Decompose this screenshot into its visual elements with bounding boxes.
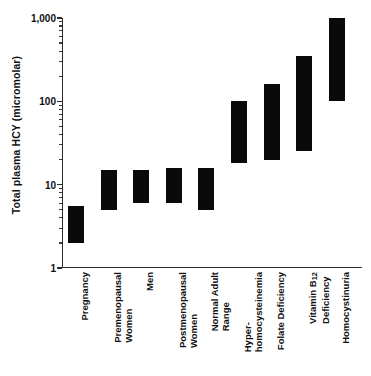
x-label-line1: Pregnancy xyxy=(79,272,90,321)
x-label-line1: Homocystinuria xyxy=(340,272,351,344)
bar-normal-adult-range xyxy=(198,168,214,210)
y-tick-label: 1 xyxy=(50,263,56,274)
x-axis-line xyxy=(62,267,362,268)
y-minor-tick-mark xyxy=(59,119,62,120)
y-minor-tick-mark xyxy=(59,217,62,218)
y-minor-tick-mark xyxy=(59,159,62,160)
x-axis-category-labels: PregnancyPremenopausalWomenMenPostmenopa… xyxy=(62,272,362,376)
y-minor-tick-mark xyxy=(59,36,62,37)
x-label-vitamin-b12-deficiency: Vitamin B12Deficiency xyxy=(308,272,331,324)
y-minor-tick-mark xyxy=(59,51,62,52)
x-label-premenopausal-women: PremenopausalWomen xyxy=(113,272,134,343)
y-minor-tick-mark xyxy=(59,76,62,77)
x-label-line1: Vitamin B12 xyxy=(307,272,318,324)
y-minor-tick-mark xyxy=(59,209,62,210)
plot-area: 1,000100101 xyxy=(62,18,362,268)
y-minor-tick-mark xyxy=(59,228,62,229)
y-axis-title-text: Total plasma HCY (micromolar) xyxy=(10,56,22,214)
bar-postmenopausal-women xyxy=(166,168,182,203)
y-minor-tick-mark xyxy=(59,188,62,189)
y-tick-label: 1,000 xyxy=(31,13,56,24)
bar-premenopausal-women xyxy=(101,170,117,210)
x-label-normal-adult-range: Normal AdultRange xyxy=(210,272,231,331)
x-label-pregnancy: Pregnancy xyxy=(80,272,91,321)
x-label-postmenopausal-women: PostmenopausalWomen xyxy=(178,272,199,348)
x-label-line2: Women xyxy=(188,272,199,348)
x-label-folate-deficiency: Folate Deficiency xyxy=(276,272,287,350)
bar-vitamin-b12-deficiency xyxy=(296,56,312,152)
y-minor-tick-mark xyxy=(59,203,62,204)
y-axis-title: Total plasma HCY (micromolar) xyxy=(2,0,30,270)
y-tick-mark xyxy=(57,184,62,185)
bar-folate-deficiency xyxy=(264,84,280,159)
x-label-homocystinuria: Homocystinuria xyxy=(341,272,352,344)
y-minor-tick-mark xyxy=(59,105,62,106)
y-minor-tick-mark xyxy=(59,30,62,31)
y-minor-tick-mark xyxy=(59,242,62,243)
y-tick-mark xyxy=(57,267,62,268)
y-tick-mark xyxy=(57,101,62,102)
bar-pregnancy xyxy=(68,206,84,243)
y-axis-line xyxy=(62,18,63,268)
y-tick-label: 10 xyxy=(45,179,56,190)
chart-figure: Total plasma HCY (micromolar) 1,00010010… xyxy=(0,0,371,376)
x-label-line1: Normal Adult xyxy=(209,272,220,331)
x-label-line1: Men xyxy=(144,272,155,291)
x-label-line2: Deficiency xyxy=(321,272,332,324)
y-minor-tick-mark xyxy=(59,21,62,22)
x-label-line1: Folate Deficiency xyxy=(275,272,286,350)
x-label-men: Men xyxy=(145,272,156,291)
bar-men xyxy=(133,170,149,203)
y-minor-tick-mark xyxy=(59,25,62,26)
x-label-line2: Range xyxy=(221,272,232,331)
y-minor-tick-mark xyxy=(59,109,62,110)
x-label-hyper-homocysteinemia: Hyper-homocysteinemia xyxy=(243,272,264,352)
x-label-line1: Postmenopausal xyxy=(177,272,188,348)
y-minor-tick-mark xyxy=(59,114,62,115)
y-minor-tick-mark xyxy=(59,144,62,145)
bar-homocystinuria xyxy=(329,18,345,101)
bar-hyper-homocysteinemia xyxy=(231,101,247,163)
y-minor-tick-mark xyxy=(59,192,62,193)
y-minor-tick-mark xyxy=(59,42,62,43)
y-minor-tick-mark xyxy=(59,197,62,198)
y-minor-tick-mark xyxy=(59,134,62,135)
x-label-line2: homocysteinemia xyxy=(254,272,265,352)
y-tick-label: 100 xyxy=(39,96,56,107)
y-minor-tick-mark xyxy=(59,126,62,127)
x-label-line1: Hyper- xyxy=(242,322,253,352)
y-tick-mark xyxy=(57,17,62,18)
x-label-line1: Premenopausal xyxy=(112,272,123,343)
y-minor-tick-mark xyxy=(59,61,62,62)
x-label-line2: Women xyxy=(123,272,134,343)
